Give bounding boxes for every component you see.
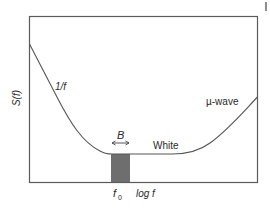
bandwidth-arrow-icon xyxy=(112,141,129,145)
microwave-region-label: µ-wave xyxy=(206,96,239,107)
svg-text:0: 0 xyxy=(118,194,122,201)
svg-text:f: f xyxy=(113,187,117,199)
x-axis-label: log f xyxy=(136,188,156,199)
noise-spectrum-diagram: B 1/f White µ-wave S(f) f 0 log f xyxy=(0,0,270,210)
bandwidth-label: B xyxy=(117,129,124,141)
flicker-region-label: 1/f xyxy=(55,81,67,92)
bandwidth-band xyxy=(111,154,130,182)
y-axis-label: S(f) xyxy=(11,90,22,106)
white-region-label: White xyxy=(153,140,179,151)
center-frequency-label: f 0 xyxy=(113,187,122,201)
